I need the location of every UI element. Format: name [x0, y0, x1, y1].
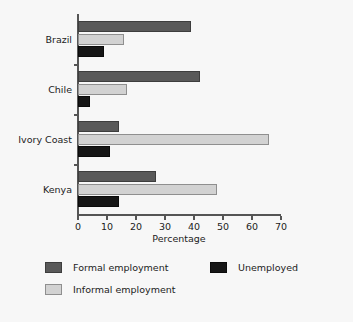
bar-chart: 010203040506070 BrazilChileIvory CoastKe…: [0, 0, 353, 322]
y-axis-tick: [74, 164, 78, 166]
x-axis-tick-label: 0: [75, 221, 81, 232]
x-axis-tick: [77, 216, 79, 220]
bar-chile-formal-employment: [78, 71, 200, 82]
legend-item-formal-employment[interactable]: Formal employment: [45, 262, 168, 273]
plot-area: [78, 14, 281, 214]
x-axis-tick-label: 50: [217, 221, 229, 232]
legend-label: Unemployed: [238, 262, 298, 273]
bar-kenya-unemployed: [78, 196, 119, 207]
x-axis-tick: [135, 216, 137, 220]
bar-brazil-unemployed: [78, 46, 104, 57]
category-label-kenya: Kenya: [43, 184, 72, 195]
bar-brazil-formal-employment: [78, 21, 191, 32]
legend-label: Informal employment: [73, 284, 176, 295]
legend-item-unemployed[interactable]: Unemployed: [210, 262, 298, 273]
x-axis-tick: [106, 216, 108, 220]
bar-chile-informal-employment: [78, 84, 127, 95]
legend-label: Formal employment: [73, 262, 168, 273]
x-axis-tick: [222, 216, 224, 220]
category-label-ivory-coast: Ivory Coast: [18, 134, 72, 145]
legend-swatch-icon: [45, 284, 62, 295]
legend-swatch-icon: [45, 262, 62, 273]
bar-brazil-informal-employment: [78, 34, 124, 45]
x-axis-title: Percentage: [152, 233, 205, 244]
bar-ivory-coast-informal-employment: [78, 134, 269, 145]
y-axis-tick: [74, 114, 78, 116]
x-axis-tick-label: 70: [275, 221, 287, 232]
x-axis-tick: [193, 216, 195, 220]
y-axis-tick: [74, 64, 78, 66]
legend-item-informal-employment[interactable]: Informal employment: [45, 284, 176, 295]
bar-ivory-coast-formal-employment: [78, 121, 119, 132]
x-axis-tick-label: 40: [188, 221, 200, 232]
bar-ivory-coast-unemployed: [78, 146, 110, 157]
x-axis-tick: [164, 216, 166, 220]
x-axis-tick-label: 10: [101, 221, 113, 232]
x-axis-tick: [251, 216, 253, 220]
category-label-chile: Chile: [48, 84, 72, 95]
x-axis-tick-label: 30: [159, 221, 171, 232]
category-label-brazil: Brazil: [45, 34, 72, 45]
bar-kenya-formal-employment: [78, 171, 156, 182]
chart-legend: Formal employmentUnemployedInformal empl…: [0, 258, 353, 318]
x-axis-tick: [280, 216, 282, 220]
legend-swatch-icon: [210, 262, 227, 273]
x-axis-tick-label: 60: [246, 221, 258, 232]
bar-chile-unemployed: [78, 96, 90, 107]
bar-kenya-informal-employment: [78, 184, 217, 195]
x-axis-tick-label: 20: [130, 221, 142, 232]
